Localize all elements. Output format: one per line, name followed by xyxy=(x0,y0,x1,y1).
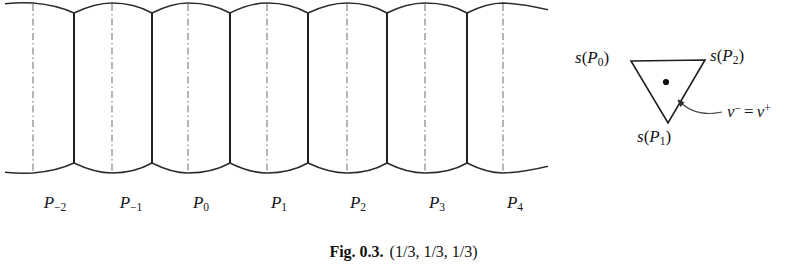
cell-label-base: P xyxy=(350,193,360,212)
pointer-arrow-curve xyxy=(678,100,722,114)
s-function-symbol: s xyxy=(710,46,717,65)
cell-label-p-minus-2: P−2 xyxy=(44,193,67,214)
interior-point-label: ν−=ν+ xyxy=(727,102,771,122)
cell-label-p-0: P0 xyxy=(193,193,209,214)
cell-label-base: P xyxy=(193,193,203,212)
s-function-symbol: s xyxy=(575,48,582,67)
interior-point-dot xyxy=(663,79,669,85)
cell-centre-lines xyxy=(33,4,503,172)
cell-label-index: 0 xyxy=(203,201,209,214)
nu-symbol-left: ν xyxy=(727,102,735,121)
s-function-symbol: s xyxy=(637,127,644,146)
vertex-label-s-p1: s(P1) xyxy=(637,127,671,148)
cell-label-p-1: P1 xyxy=(271,193,287,214)
cell-label-p-2: P2 xyxy=(350,193,366,214)
cell-label-p-minus-1: P−1 xyxy=(120,193,143,214)
cell-label-p-3: P3 xyxy=(429,193,445,214)
vertex-label-s-p0: s(P0) xyxy=(575,48,609,69)
cell-boundary-lines xyxy=(74,13,467,163)
point-symbol: P xyxy=(587,48,597,67)
tiling-group xyxy=(0,3,560,174)
close-paren: ) xyxy=(665,127,671,146)
close-paren: ) xyxy=(738,46,744,65)
cell-label-index: 4 xyxy=(517,201,523,214)
figure-caption-text: (1/3, 1/3, 1/3) xyxy=(390,243,478,260)
vertex-label-s-p2: s(P2) xyxy=(710,46,744,67)
plus-sign: + xyxy=(764,102,771,115)
minus-sign: − xyxy=(735,102,742,115)
cell-label-index: 2 xyxy=(360,201,366,214)
equals-sign: = xyxy=(744,102,754,121)
triangle-outline xyxy=(631,60,705,123)
tiling-bottom-arcs xyxy=(0,163,560,173)
close-paren: ) xyxy=(603,48,609,67)
cell-label-base: P xyxy=(271,193,281,212)
figure-caption-label: Fig. 0.3. xyxy=(329,243,383,260)
cell-label-base: P xyxy=(120,193,130,212)
cell-label-index: −2 xyxy=(54,201,66,214)
cell-label-base: P xyxy=(429,193,439,212)
cell-label-index: −1 xyxy=(130,201,142,214)
cell-label-base: P xyxy=(507,193,517,212)
point-symbol: P xyxy=(722,46,732,65)
tiling-top-arcs xyxy=(0,3,560,13)
cell-label-base: P xyxy=(44,193,54,212)
cell-label-p-4: P4 xyxy=(507,193,523,214)
figure-caption: Fig. 0.3.(1/3, 1/3, 1/3) xyxy=(0,243,807,261)
cell-label-index: 1 xyxy=(281,201,287,214)
figure-0-3: P−2 P−1 P0 P1 P2 P3 P4 s(P0) s(P2) s(P1)… xyxy=(0,0,807,274)
barrel-tiling-diagram xyxy=(0,0,560,190)
cell-label-index: 3 xyxy=(439,201,445,214)
point-symbol: P xyxy=(649,127,659,146)
